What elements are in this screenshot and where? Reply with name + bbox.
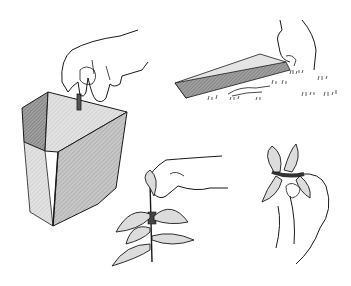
panel-cutting-left <box>112 156 228 266</box>
panel-block <box>22 30 148 226</box>
panel-cutting-right <box>262 144 329 264</box>
illustration: Line-drawing illustration of four steps:… <box>0 0 351 286</box>
panel-soil <box>175 20 336 100</box>
